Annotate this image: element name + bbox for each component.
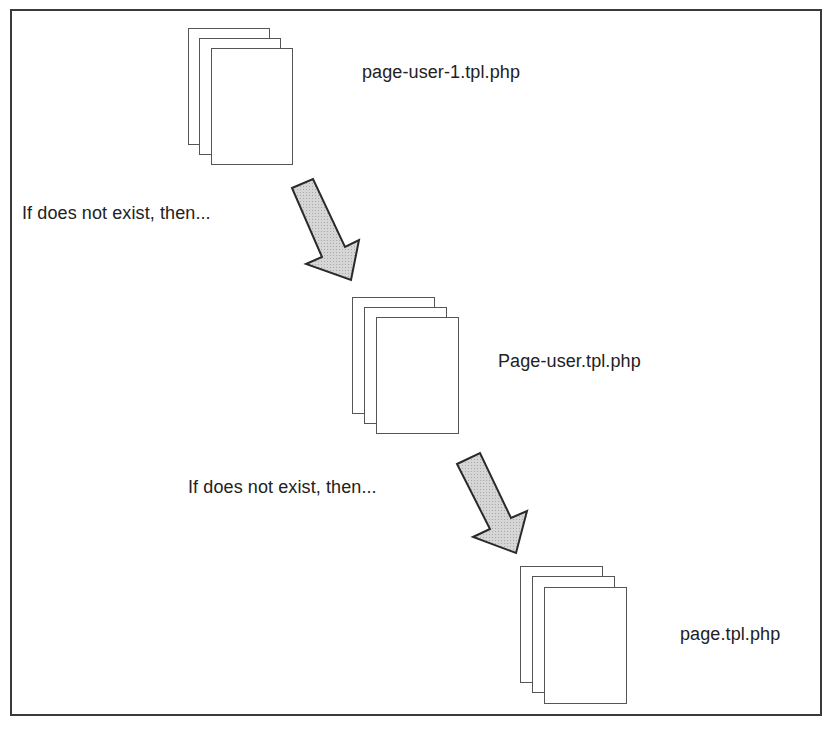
arrows-layer	[0, 0, 832, 729]
arrow-down-right-icon	[292, 179, 359, 280]
arrow-down-right-icon	[457, 453, 527, 553]
